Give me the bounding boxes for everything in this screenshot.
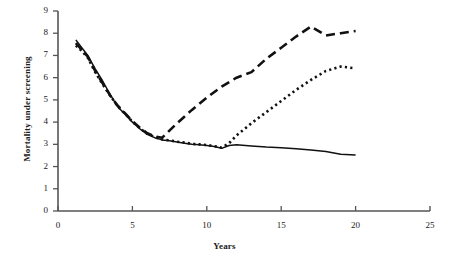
y-axis-tick-label: 0 <box>34 205 48 215</box>
y-axis-tick-label: 5 <box>34 94 48 104</box>
y-axis-tick-label: 8 <box>34 27 48 37</box>
x-axis-tick-label: 25 <box>421 220 439 230</box>
y-axis-tick-label: 9 <box>34 5 48 15</box>
x-axis-tick-label: 15 <box>272 220 290 230</box>
series-dashed-line <box>76 27 356 138</box>
y-axis-tick-label: 7 <box>34 49 48 59</box>
x-axis-tick-label: 10 <box>198 220 216 230</box>
y-axis-title: Mortality under screening <box>22 24 32 194</box>
x-axis-tick-label: 20 <box>347 220 365 230</box>
x-axis-title: Years <box>0 241 449 251</box>
axes <box>53 11 430 211</box>
y-axis-tick-label: 1 <box>34 183 48 193</box>
x-axis-tick-label: 0 <box>49 220 67 230</box>
series-dotted-line <box>76 45 356 147</box>
y-axis-tick-label: 3 <box>34 138 48 148</box>
mortality-under-screening-chart: Mortality under screening Years 01234567… <box>0 0 449 262</box>
y-axis-tick-label: 4 <box>34 116 48 126</box>
y-axis-tick-label: 2 <box>34 161 48 171</box>
x-axis-tick-label: 5 <box>123 220 141 230</box>
y-axis-tick-label: 6 <box>34 72 48 82</box>
series-solid-line <box>76 40 356 155</box>
data-series-group <box>76 27 356 155</box>
plot-area <box>0 0 449 262</box>
